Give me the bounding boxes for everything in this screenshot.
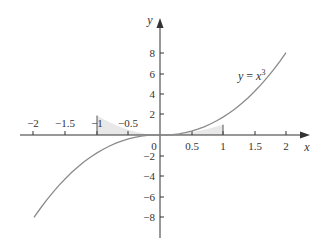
y-tick-label: −2 — [143, 150, 155, 162]
y-tick-label: 8 — [150, 47, 156, 59]
y-tick-label: 4 — [150, 88, 156, 100]
x-tick-label: −2 — [27, 117, 39, 129]
y-tick-label: −8 — [143, 211, 155, 223]
x-tick-label: 1.5 — [248, 140, 262, 152]
y-tick-label: −6 — [143, 191, 155, 203]
curve-label: y = x3 — [237, 68, 265, 83]
y-tick-label: 2 — [150, 108, 156, 120]
x-axis-label: x — [303, 140, 310, 154]
x-axis-arrow-icon — [300, 132, 310, 139]
x-tick-label: −0.5 — [118, 117, 138, 129]
x-tick-label: −1.5 — [55, 117, 75, 129]
x-tick-label: 1 — [220, 140, 226, 152]
curve-label-eq: = — [243, 69, 256, 83]
x-tick-label: 2 — [283, 140, 289, 152]
x-tick-label: 0.5 — [185, 140, 199, 152]
y-tick-label: −4 — [143, 170, 155, 182]
y-axis-arrow-icon — [157, 18, 164, 28]
y-axis-label: y — [146, 13, 153, 27]
curve-label-exponent: 3 — [261, 68, 265, 77]
y-tick-label: 6 — [150, 68, 156, 80]
x-tick-label: −1 — [91, 117, 103, 129]
cubic-function-graph: −2 −1.5 −1 −0.5 0 0.5 1 1.5 2 x y 8 6 4 … — [0, 0, 326, 251]
